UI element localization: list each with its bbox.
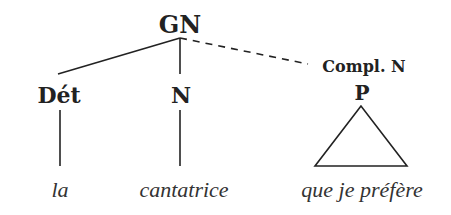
node-n: N	[171, 82, 191, 108]
edge-root-to-complement-dashed	[180, 38, 308, 64]
root-node-gn: GN	[159, 10, 201, 39]
node-det: Dét	[37, 82, 81, 108]
edge-root-to-det	[58, 38, 180, 74]
complement-label: Compl. N	[322, 57, 405, 76]
triangle-p-to-leaf	[315, 106, 407, 166]
leaf-word-cantatrice: cantatrice	[139, 177, 228, 202]
leaf-words-que-je-prefere: que je préfère	[301, 177, 423, 202]
leaf-word-la: la	[51, 177, 68, 202]
syntax-tree-diagram: GN Compl. N Dét N P la cantatrice que je…	[0, 0, 451, 215]
node-p: P	[354, 81, 369, 105]
